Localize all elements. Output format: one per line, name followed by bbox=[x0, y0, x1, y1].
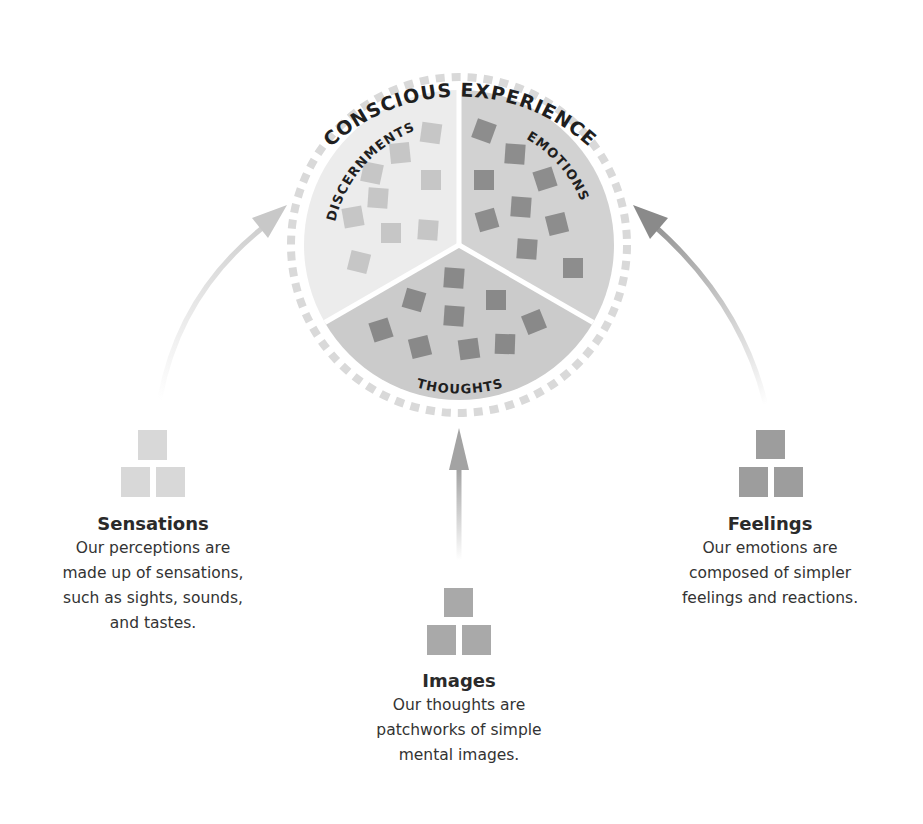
arrow-images-to-thoughts bbox=[449, 428, 469, 560]
square-tile bbox=[486, 290, 506, 310]
square-tile bbox=[417, 219, 438, 240]
square-tile bbox=[504, 143, 525, 164]
caption-body: Our emotions are composed of simpler fee… bbox=[655, 536, 885, 611]
images-stacked-squares-icon bbox=[427, 588, 491, 655]
caption-images: Images Our thoughts are patchworks of si… bbox=[349, 669, 569, 768]
square-tile bbox=[367, 187, 388, 208]
square-tile bbox=[495, 334, 516, 355]
square-tile bbox=[421, 170, 441, 190]
caption-title: Feelings bbox=[655, 512, 885, 536]
caption-title: Images bbox=[349, 669, 569, 693]
square-tile bbox=[420, 122, 443, 145]
arrowhead-icon bbox=[449, 428, 469, 470]
square-tile bbox=[443, 305, 464, 326]
arrow-sensations-to-discernments bbox=[160, 205, 287, 398]
square-tile bbox=[458, 338, 481, 361]
pie-chart bbox=[304, 90, 614, 400]
feelings-stacked-squares-icon bbox=[739, 430, 803, 497]
square-tile bbox=[563, 258, 583, 278]
caption-body: Our perceptions are made up of sensation… bbox=[43, 536, 263, 636]
caption-title: Sensations bbox=[43, 512, 263, 536]
square-tile bbox=[381, 223, 401, 243]
square-tile bbox=[516, 238, 537, 259]
square-tile bbox=[443, 267, 464, 288]
caption-feelings: Feelings Our emotions are composed of si… bbox=[655, 512, 885, 611]
caption-body: Our thoughts are patchworks of simple me… bbox=[349, 693, 569, 768]
square-tile bbox=[510, 196, 531, 217]
square-tile bbox=[474, 170, 494, 190]
square-tile bbox=[341, 205, 364, 228]
sensations-stacked-squares-icon bbox=[121, 430, 185, 497]
arrow-feelings-to-emotions bbox=[633, 205, 765, 402]
caption-sensations: Sensations Our perceptions are made up o… bbox=[43, 512, 263, 636]
